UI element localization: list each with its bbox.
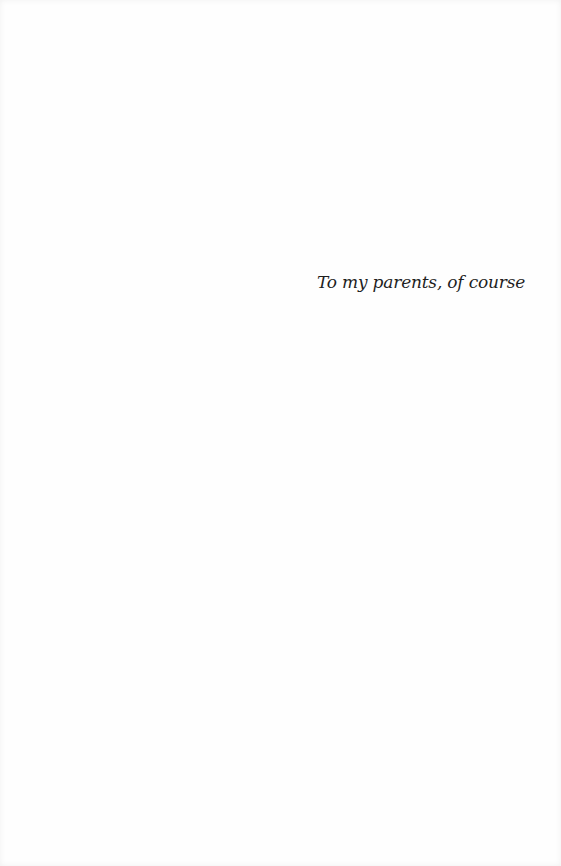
dedication-text: To my parents, of course [317, 272, 525, 292]
book-page: To my parents, of course [0, 0, 561, 866]
